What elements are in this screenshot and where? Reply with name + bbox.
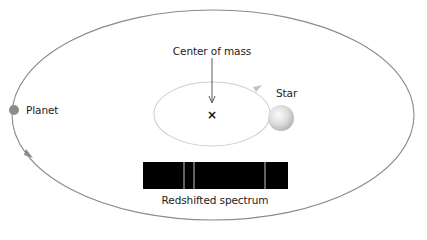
spectrum-label: Redshifted spectrum	[162, 195, 269, 206]
planet-label: Planet	[26, 105, 58, 116]
planet-icon	[9, 105, 19, 115]
star-label: Star	[276, 88, 297, 99]
center-of-mass-marker-icon: ×	[207, 109, 217, 121]
star-icon	[268, 105, 294, 131]
star-orbit-arrow-icon	[253, 85, 262, 92]
center-of-mass-label: Center of mass	[173, 46, 251, 57]
spectrum-bar	[143, 162, 288, 189]
